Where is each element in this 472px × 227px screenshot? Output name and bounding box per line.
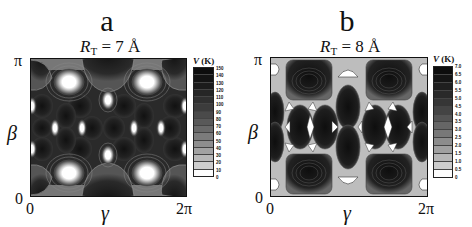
cb-a-level: 100 — [216, 102, 224, 107]
panel-a-ylabel: β — [7, 123, 17, 143]
cb-b-level: 5.5 — [455, 88, 461, 93]
cb-b-level: 6.5 — [455, 72, 461, 77]
panel-a-subtitle-var: R — [80, 37, 90, 56]
cb-b-level: 6.0 — [455, 80, 461, 85]
cb-b-level: 2.0 — [455, 143, 461, 148]
panel-a-subtitle: RT = 7 Å — [80, 38, 140, 60]
cb-a-level: 30 — [216, 153, 224, 158]
panel-b-colorbar-labels: 7.0 6.5 6.0 5.5 5.0 4.5 4.0 3.5 3.0 2.5 … — [455, 64, 461, 180]
cb-a-level: 10 — [216, 168, 224, 173]
cb-a-level: 40 — [216, 146, 224, 151]
cb-b-level: 4.5 — [455, 104, 461, 109]
panel-a-colorbar-title-unit: (K) — [199, 56, 214, 66]
cb-a-level: 0 — [216, 175, 224, 180]
cb-b-level: 2.5 — [455, 135, 461, 140]
panel-a-colorbar — [193, 67, 214, 177]
panel-a-ytick-pi: π — [14, 53, 22, 69]
panel-a-subtitle-rest: = 7 Å — [97, 37, 140, 56]
cb-a-level: 70 — [216, 124, 224, 129]
cb-b-level: 0 — [455, 175, 461, 180]
cb-a-level: 20 — [216, 160, 224, 165]
panel-b-colorbar-title: V (K) — [433, 54, 454, 64]
cb-a-level: 120 — [216, 88, 224, 93]
cb-b-level: 4.0 — [455, 112, 461, 117]
panel-b-ytick-0: 0 — [255, 190, 263, 206]
cb-b-level: 1.5 — [455, 151, 461, 156]
panel-a-ytick-0: 0 — [15, 191, 23, 207]
panel-a-xtick-0: 0 — [26, 201, 34, 217]
cb-b-level: 3.5 — [455, 119, 461, 124]
panel-b-xtick-0: 0 — [266, 201, 274, 217]
panel-a-xlabel: γ — [101, 203, 109, 223]
cb-a-level: 150 — [216, 66, 224, 71]
panel-b-contour-plot — [270, 57, 428, 197]
panel-a-contour-plot — [30, 58, 187, 197]
panel-a-xtick-2pi: 2π — [176, 201, 192, 217]
cb-b-level: 7.0 — [455, 64, 461, 69]
cb-a-level: 110 — [216, 95, 224, 100]
panel-b-xtick-2pi: 2π — [418, 201, 434, 217]
cb-a-level: 90 — [216, 110, 224, 115]
cb-b-level: 1.0 — [455, 159, 461, 164]
panel-b-ytick-pi: π — [254, 52, 262, 68]
panel-b-colorbar — [433, 66, 453, 178]
panel-a-colorbar-title: V (K) — [193, 56, 214, 66]
panel-b-subtitle-rest: = 8 Å — [337, 37, 380, 56]
cb-b-level: 3.0 — [455, 127, 461, 132]
cb-a-level: 80 — [216, 117, 224, 122]
panel-a-colorbar-labels: 150 140 130 120 110 100 90 80 70 60 50 4… — [216, 66, 224, 180]
panel-b-subtitle-var: R — [320, 37, 330, 56]
panel-b-xlabel: γ — [343, 203, 351, 223]
panel-b-label: b — [317, 6, 377, 36]
cb-a-level: 140 — [216, 73, 224, 78]
cb-a-level: 60 — [216, 131, 224, 136]
panel-b-ylabel: β — [248, 122, 258, 142]
panel-b-colorbar-title-unit: (K) — [439, 54, 454, 64]
cb-b-level: 5.0 — [455, 96, 461, 101]
cb-a-level: 50 — [216, 139, 224, 144]
cb-a-level: 130 — [216, 81, 224, 86]
panel-a-label: a — [77, 6, 137, 36]
cb-b-level: 0.5 — [455, 167, 461, 172]
